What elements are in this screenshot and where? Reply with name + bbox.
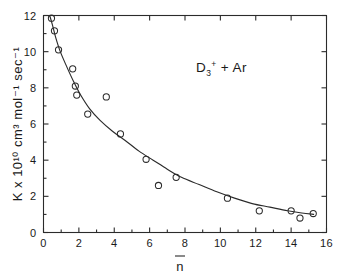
y-tick-label: 6 bbox=[30, 118, 36, 130]
y-axis-ticks bbox=[44, 16, 327, 233]
x-axis-ticks bbox=[44, 16, 327, 233]
x-tick-label: 2 bbox=[76, 237, 82, 249]
y-tick-label: 4 bbox=[30, 154, 36, 166]
y-tick-label: 0 bbox=[30, 227, 36, 239]
reaction-label: D3+ + Ar bbox=[196, 59, 247, 78]
data-point-group bbox=[48, 15, 316, 221]
y-tick-label: 12 bbox=[24, 10, 37, 22]
y-tick-label: 2 bbox=[30, 190, 36, 202]
data-point bbox=[117, 131, 123, 137]
x-tick-label: 8 bbox=[182, 237, 188, 249]
data-point bbox=[74, 92, 80, 98]
plot-frame bbox=[44, 16, 327, 233]
x-tick-label: 10 bbox=[214, 237, 227, 249]
x-tick-label: 0 bbox=[40, 237, 46, 249]
x-tick-label: 6 bbox=[146, 237, 152, 249]
x-tick-label: 4 bbox=[111, 237, 117, 249]
x-tick-label: 12 bbox=[249, 237, 262, 249]
x-axis-title: n bbox=[176, 259, 184, 274]
data-point bbox=[297, 215, 303, 221]
x-tick-label: 14 bbox=[285, 237, 298, 249]
x-axis-title-group: n bbox=[175, 256, 185, 274]
x-axis-tick-labels: 0246810121416 bbox=[40, 237, 333, 249]
figure-container: 0246810121416 024681012 D3+ + Ar n K x 1… bbox=[0, 0, 337, 278]
data-point bbox=[103, 94, 109, 100]
scatter-plot: 0246810121416 024681012 D3+ + Ar n K x 1… bbox=[0, 0, 337, 278]
data-point bbox=[70, 66, 76, 72]
data-point bbox=[143, 156, 149, 162]
reaction-annotation: D3+ + Ar bbox=[196, 59, 247, 78]
y-axis-title: K x 10¹⁰ cm³ mol⁻¹ sec⁻¹ bbox=[10, 47, 25, 202]
data-point bbox=[85, 111, 91, 117]
y-axis-tick-labels: 024681012 bbox=[24, 10, 37, 239]
y-axis-title-group: K x 10¹⁰ cm³ mol⁻¹ sec⁻¹ bbox=[10, 47, 25, 202]
data-point bbox=[256, 208, 262, 214]
data-point bbox=[155, 182, 161, 188]
y-tick-label: 10 bbox=[24, 46, 37, 58]
y-tick-label: 8 bbox=[30, 82, 36, 94]
fit-curve bbox=[50, 16, 314, 215]
x-tick-label: 16 bbox=[320, 237, 333, 249]
